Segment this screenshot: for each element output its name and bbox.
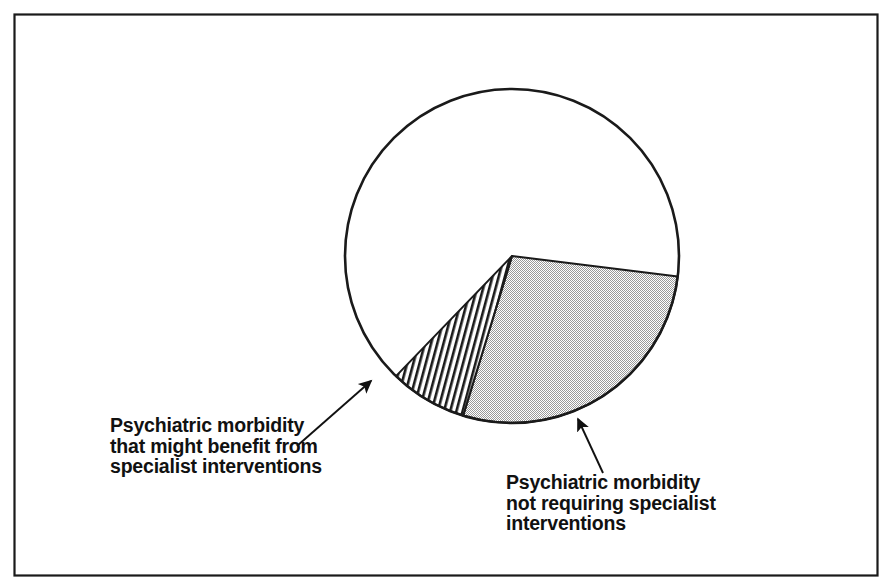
page-background: [0, 0, 892, 588]
left-callout-label: Psychiatric morbidity that might benefit…: [110, 414, 323, 477]
right-callout-line-2: not requiring specialist: [506, 492, 716, 514]
right-callout-line-3: interventions: [506, 512, 626, 534]
pie-diagram-svg: Psychiatric morbidity that might benefit…: [0, 0, 892, 588]
figure-root: Psychiatric morbidity that might benefit…: [0, 0, 892, 588]
left-callout-line-1: Psychiatric morbidity: [110, 414, 304, 436]
right-callout-line-1: Psychiatric morbidity: [506, 471, 700, 493]
left-callout-line-3: specialist interventions: [110, 455, 322, 477]
left-callout-line-2: that might benefit from: [110, 435, 318, 457]
